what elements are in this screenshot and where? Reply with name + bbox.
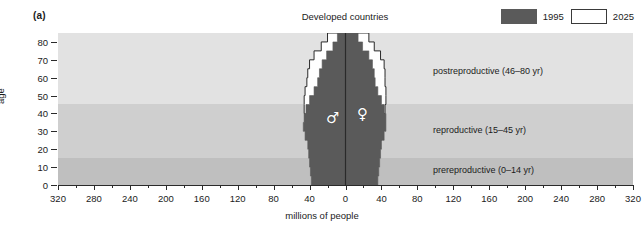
x-tick — [346, 185, 347, 190]
y-tick-label: 10 — [24, 162, 48, 173]
female-symbol-icon: ♀ — [357, 107, 368, 122]
x-tick-minor — [435, 185, 436, 188]
male-symbol-icon: ♂ — [326, 111, 339, 126]
x-tick — [94, 185, 95, 190]
x-tick-minor — [615, 185, 616, 188]
x-tick — [166, 185, 167, 190]
x-tick-minor — [256, 185, 257, 188]
x-axis-title: millions of people — [0, 210, 644, 221]
x-tick — [274, 185, 275, 190]
legend-swatch-1995 — [501, 9, 537, 24]
x-tick-label: 80 — [412, 193, 423, 204]
x-tick — [525, 185, 526, 190]
x-tick-label: 160 — [194, 193, 210, 204]
y-tick — [51, 185, 57, 186]
x-tick — [417, 185, 418, 190]
x-tick-label: 120 — [230, 193, 246, 204]
x-tick-minor — [471, 185, 472, 188]
x-tick-label: 320 — [50, 193, 66, 204]
y-tick-label: 0 — [24, 180, 48, 191]
legend-item-2025: 2025 — [571, 9, 634, 24]
y-tick — [51, 42, 57, 43]
x-tick — [381, 185, 382, 190]
x-tick-label: 40 — [304, 193, 315, 204]
x-tick — [202, 185, 203, 190]
x-tick-label: 160 — [481, 193, 497, 204]
x-tick-minor — [579, 185, 580, 188]
x-tick-label: 40 — [376, 193, 387, 204]
x-tick-minor — [220, 185, 221, 188]
y-tick-label: 60 — [24, 72, 48, 83]
x-tick-label: 280 — [589, 193, 605, 204]
x-tick — [561, 185, 562, 190]
x-tick-minor — [112, 185, 113, 188]
legend: 1995 2025 — [501, 9, 634, 24]
x-tick-minor — [363, 185, 364, 188]
y-tick — [51, 149, 57, 150]
x-tick — [597, 185, 598, 190]
y-tick-label: 30 — [24, 126, 48, 137]
x-tick-minor — [328, 185, 329, 188]
x-tick-minor — [184, 185, 185, 188]
y-tick-label: 70 — [24, 54, 48, 65]
chart-title: Developed countries — [240, 11, 450, 22]
y-tick — [51, 60, 57, 61]
x-tick-label: 320 — [625, 193, 641, 204]
x-tick-minor — [292, 185, 293, 188]
x-tick — [130, 185, 131, 190]
y-tick-label: 20 — [24, 144, 48, 155]
x-tick — [633, 185, 634, 190]
x-tick — [453, 185, 454, 190]
y-tick-label: 40 — [24, 108, 48, 119]
x-tick-label: 240 — [553, 193, 569, 204]
y-tick — [51, 131, 57, 132]
legend-swatch-2025 — [571, 9, 607, 24]
y-tick — [51, 113, 57, 114]
y-tick — [51, 96, 57, 97]
legend-label-2025: 2025 — [613, 11, 634, 22]
x-tick — [489, 185, 490, 190]
panel-label: (a) — [33, 10, 46, 21]
x-tick-minor — [543, 185, 544, 188]
x-tick-minor — [76, 185, 77, 188]
x-tick — [238, 185, 239, 190]
y-tick-label: 80 — [24, 36, 48, 47]
x-tick-minor — [399, 185, 400, 188]
x-tick-minor — [148, 185, 149, 188]
x-tick-label: 120 — [445, 193, 461, 204]
legend-label-1995: 1995 — [543, 11, 564, 22]
x-tick-label: 240 — [122, 193, 138, 204]
x-tick — [58, 185, 59, 190]
y-tick — [51, 78, 57, 79]
x-tick-label: 200 — [158, 193, 174, 204]
y-tick — [51, 167, 57, 168]
population-pyramid-figure: (a) Developed countries 1995 2025 postre… — [0, 0, 644, 243]
x-tick-label: 0 — [343, 193, 348, 204]
y-axis-title: age — [0, 88, 6, 104]
x-tick-label: 200 — [517, 193, 533, 204]
x-tick-label: 280 — [86, 193, 102, 204]
pyramid-bars — [58, 33, 633, 185]
x-tick-minor — [507, 185, 508, 188]
plot-area: postreproductive (46–80 yr) reproductive… — [58, 33, 633, 185]
y-tick-label: 50 — [24, 90, 48, 101]
legend-item-1995: 1995 — [501, 9, 564, 24]
x-tick-label: 80 — [268, 193, 279, 204]
x-tick — [310, 185, 311, 190]
